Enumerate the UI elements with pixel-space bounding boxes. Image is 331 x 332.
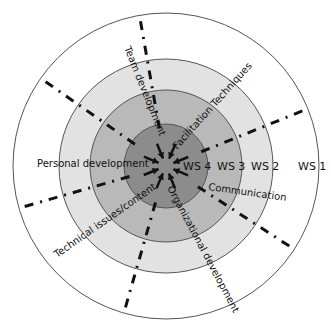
ring-labels: WS 1WS 2WS 3WS 4	[183, 160, 326, 173]
ring-label-ws4: WS 4	[183, 160, 211, 173]
ring-label-ws2: WS 2	[251, 160, 279, 173]
topic-label-personal-development: Personal development	[37, 158, 149, 169]
workshop-ring-diagram: WS 1WS 2WS 3WS 4 Team developmentFacilit…	[0, 0, 331, 332]
ring-label-ws3: WS 3	[217, 160, 245, 173]
ring-label-ws1: WS 1	[298, 160, 326, 173]
